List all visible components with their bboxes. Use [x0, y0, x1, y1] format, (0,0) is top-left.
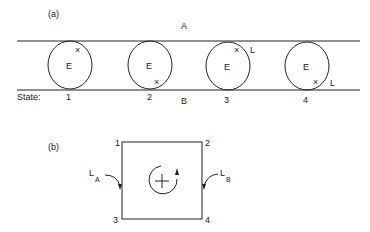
circular-arrowhead-icon	[175, 168, 179, 175]
l-b-sub: B	[226, 176, 231, 183]
state-1-circle-group: E × 1	[48, 41, 92, 102]
circular-arrow-icon	[149, 166, 177, 194]
l-a-arrowhead-icon	[118, 184, 122, 190]
marker-x-2: ×	[154, 77, 159, 87]
l-b-main: L	[220, 168, 225, 178]
marker-x-1: ×	[75, 45, 80, 55]
panel-b-label: (b)	[48, 142, 59, 152]
state-2-circle-group: E × 2	[128, 41, 172, 102]
l-a-arrow-icon	[105, 175, 120, 186]
state-label: State:	[17, 92, 41, 102]
region-a-label: A	[181, 21, 187, 31]
circle-e-4-label: E	[303, 62, 309, 72]
corner-3-label: 3	[113, 215, 118, 225]
state-3-number: 3	[224, 95, 229, 105]
corner-4-label: 4	[205, 215, 210, 225]
l-b-arrowhead-icon	[202, 184, 206, 190]
circle-e-3-label: E	[224, 62, 230, 72]
l-a-sub: A	[95, 176, 100, 183]
corner-2-label: 2	[205, 138, 210, 148]
marker-x-4: ×	[313, 77, 318, 87]
state-4-circle-group: E × L 4	[285, 42, 335, 105]
l-a-main: L	[89, 168, 94, 178]
state-2-number: 2	[147, 92, 152, 102]
corner-1-label: 1	[115, 138, 120, 148]
state-4-number: 4	[303, 95, 308, 105]
state-3-circle-group: E × L 3	[206, 42, 255, 105]
marker-l-4: L	[330, 78, 335, 88]
marker-x-3: ×	[234, 45, 239, 55]
region-b-label: B	[181, 96, 187, 106]
state-1-number: 1	[66, 92, 71, 102]
circle-e-2-label: E	[146, 61, 152, 71]
diagram-canvas: (a) A B State: E × 1 E × 2 E × L 3 E × L…	[0, 0, 370, 232]
circle-e-1-label: E	[66, 61, 72, 71]
l-b-arrow-icon	[204, 174, 218, 186]
panel-a-label: (a)	[48, 9, 59, 19]
marker-l-3: L	[250, 45, 255, 55]
